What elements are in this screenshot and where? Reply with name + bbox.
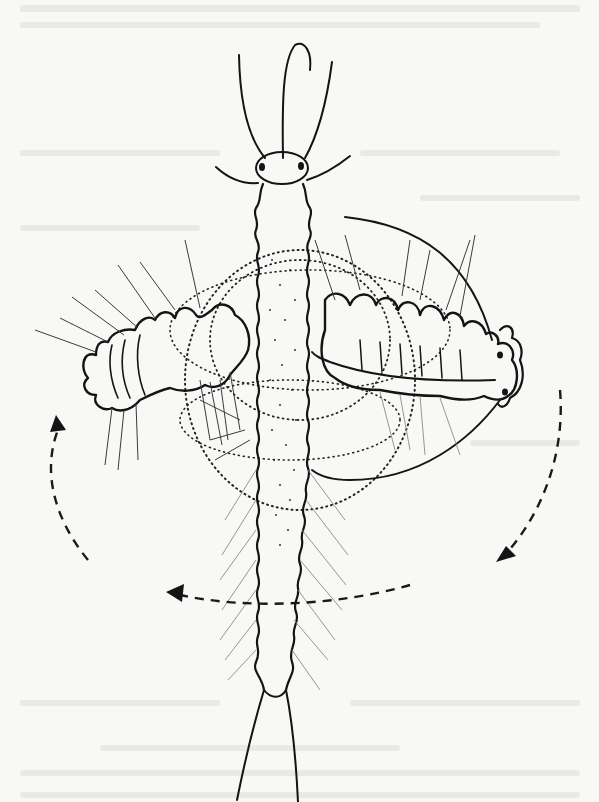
right-lateral-body [322,294,517,400]
arrowhead-down-icon [496,546,516,562]
show-through-text [20,5,580,798]
left-up-arrow [50,415,88,560]
worm-rotation-diagram [0,0,599,802]
left-lateral-body [83,305,249,411]
illustration-canvas [0,0,599,802]
arrowhead-left-icon [166,584,184,602]
right-eye-1 [497,352,503,359]
antennae [216,44,350,183]
bottom-left-arrow [166,584,410,604]
right-eye-2 [502,389,508,396]
right-eye [298,162,304,170]
central-body [237,184,311,802]
body-stipple [269,259,297,546]
right-down-arrow [496,390,561,562]
left-eye [259,163,265,171]
arrowhead-up-icon [50,415,66,432]
